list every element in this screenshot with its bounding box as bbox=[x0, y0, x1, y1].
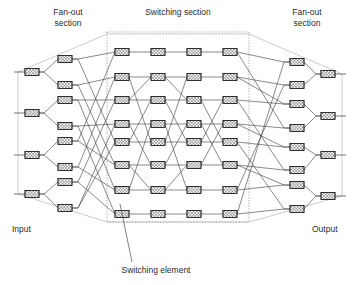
fanout-right-element-5 bbox=[290, 167, 304, 174]
switching-element-c0-r0 bbox=[115, 49, 129, 56]
switching-element-c2-r5 bbox=[187, 162, 201, 169]
fanout-left-element-2 bbox=[58, 97, 72, 104]
output-element-2 bbox=[321, 152, 335, 159]
fanout-right-element-0 bbox=[290, 59, 304, 66]
switching-element-c2-r1 bbox=[187, 74, 201, 81]
interconnect-wires bbox=[14, 52, 346, 214]
switching-element-c3-r6 bbox=[223, 187, 237, 194]
switching-element-c3-r5 bbox=[223, 162, 237, 169]
fan-out-right-label-line2: section bbox=[294, 18, 321, 28]
switching-element-c3-r3 bbox=[223, 121, 237, 128]
fanout-right-element-6 bbox=[290, 182, 304, 189]
input-label: Input bbox=[12, 224, 32, 234]
fanout-left-element-6 bbox=[58, 179, 72, 186]
fanout-right-element-4 bbox=[290, 144, 304, 151]
switching-element-c3-r4 bbox=[223, 139, 237, 146]
switching-elements bbox=[25, 49, 335, 218]
switching-element-c1-r7 bbox=[151, 211, 165, 218]
output-element-0 bbox=[321, 71, 335, 78]
switching-element-c2-r0 bbox=[187, 49, 201, 56]
output-label: Output bbox=[312, 224, 338, 234]
input-element-0 bbox=[25, 69, 39, 76]
fanout-left-element-3 bbox=[58, 123, 72, 130]
input-element-1 bbox=[25, 110, 39, 117]
switching-element-c0-r1 bbox=[115, 74, 129, 81]
fanout-left-element-7 bbox=[58, 205, 72, 212]
switching-element-c0-r5 bbox=[115, 162, 129, 169]
fan-out-right-label-line1: Fan-out bbox=[292, 7, 322, 17]
switching-element-c1-r1 bbox=[151, 74, 165, 81]
switching-element-c3-r7 bbox=[223, 211, 237, 218]
output-element-1 bbox=[321, 113, 335, 120]
switching-element-c1-r4 bbox=[151, 139, 165, 146]
switching-element-c2-r2 bbox=[187, 97, 201, 104]
switching-element-c2-r6 bbox=[187, 187, 201, 194]
output-element-3 bbox=[321, 193, 335, 200]
switching-element-c3-r2 bbox=[223, 97, 237, 104]
switching-element-c0-r3 bbox=[115, 121, 129, 128]
fanout-left-element-1 bbox=[58, 82, 72, 89]
fanout-right-element-3 bbox=[290, 125, 304, 132]
switching-element-c1-r6 bbox=[151, 187, 165, 194]
switching-element-c1-r3 bbox=[151, 121, 165, 128]
switching-element-c0-r4 bbox=[115, 139, 129, 146]
fanout-right-element-7 bbox=[290, 206, 304, 213]
switching-element-c2-r7 bbox=[187, 211, 201, 218]
fanout-right-element-2 bbox=[290, 101, 304, 108]
switching-network-diagram: Fan-out section Switching section Fan-ou… bbox=[0, 0, 361, 285]
switching-element-c2-r4 bbox=[187, 139, 201, 146]
fan-out-left-label-line2: section bbox=[55, 18, 82, 28]
switching-element-label: Switching element bbox=[122, 265, 192, 275]
switching-element-c1-r2 bbox=[151, 97, 165, 104]
fanout-left-element-4 bbox=[58, 138, 72, 145]
diagram-canvas: Fan-out section Switching section Fan-ou… bbox=[0, 0, 361, 285]
switching-element-c3-r1 bbox=[223, 74, 237, 81]
fanout-left-element-5 bbox=[58, 164, 72, 171]
switching-section-label: Switching section bbox=[145, 7, 211, 17]
fan-out-left-label-line1: Fan-out bbox=[53, 7, 83, 17]
switching-element-c3-r0 bbox=[223, 49, 237, 56]
switching-element-c1-r5 bbox=[151, 162, 165, 169]
fanout-right-element-1 bbox=[290, 82, 304, 89]
input-element-2 bbox=[25, 152, 39, 159]
switching-element-c2-r3 bbox=[187, 121, 201, 128]
switching-element-c0-r2 bbox=[115, 97, 129, 104]
switching-element-c1-r0 bbox=[151, 49, 165, 56]
input-element-3 bbox=[25, 191, 39, 198]
fanout-left-element-0 bbox=[58, 56, 72, 63]
switching-element-c0-r6 bbox=[115, 187, 129, 194]
